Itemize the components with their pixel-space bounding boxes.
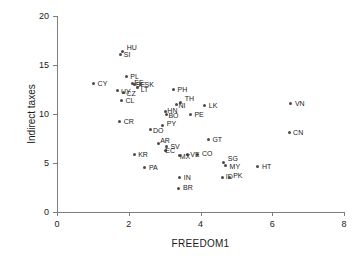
y-tick-label: 0	[44, 207, 49, 217]
data-point-label: SG	[228, 155, 238, 162]
x-tick-label: 4	[198, 219, 203, 229]
data-point-label: GT	[212, 136, 222, 143]
data-point-label: CN	[293, 129, 303, 136]
x-tick-mark	[129, 212, 130, 216]
data-point-label: VN	[295, 100, 305, 107]
data-point-label: SI	[124, 51, 131, 58]
data-point	[288, 131, 291, 134]
data-point-label: MX	[180, 153, 191, 160]
y-axis-line	[57, 16, 58, 212]
x-tick-label: 8	[341, 219, 346, 229]
x-tick-mark	[201, 212, 202, 216]
x-tick-mark	[272, 212, 273, 216]
x-tick-mark	[57, 212, 58, 216]
data-point-label: CY	[98, 80, 108, 87]
data-point-label: PA	[149, 164, 158, 171]
data-point-label: TH	[185, 95, 194, 102]
x-tick-label: 0	[54, 219, 59, 229]
data-point	[133, 153, 136, 156]
y-tick-label: 15	[39, 60, 49, 70]
data-point	[228, 176, 231, 179]
data-point	[222, 161, 225, 164]
data-point-label: NI	[178, 102, 185, 109]
data-point-label: PH	[178, 86, 188, 93]
y-tick-mark	[53, 65, 57, 66]
y-tick-label: 5	[44, 158, 49, 168]
data-point-label: PY	[167, 120, 176, 127]
data-point-label: AR	[160, 137, 170, 144]
y-tick-mark	[53, 163, 57, 164]
data-point-label: CO	[202, 150, 213, 157]
data-point	[221, 176, 224, 179]
data-point-label: HT	[262, 163, 271, 170]
data-point-label: LK	[209, 102, 218, 109]
y-tick-mark	[53, 16, 57, 17]
x-tick-label: 6	[270, 219, 275, 229]
data-point-label: BR	[183, 184, 193, 191]
data-point-label: CR	[124, 118, 134, 125]
y-axis-title: Indirect taxes	[26, 84, 37, 143]
y-tick-label: 20	[39, 11, 49, 21]
data-point-label: HU	[127, 44, 137, 51]
data-point-label: PE	[194, 111, 203, 118]
data-point-label: EC	[165, 147, 175, 154]
data-point-label: LT	[141, 86, 149, 93]
data-point-label: BO	[168, 112, 178, 119]
x-tick-label: 2	[126, 219, 131, 229]
y-tick-mark	[53, 114, 57, 115]
x-axis-title: FREEDOM1	[57, 238, 344, 249]
y-tick-label: 10	[39, 109, 49, 119]
data-point-label: VE	[190, 151, 199, 158]
x-tick-mark	[344, 212, 345, 216]
data-point-label: CL	[126, 97, 135, 104]
data-point	[122, 91, 125, 94]
data-point-label: MY	[230, 163, 241, 170]
data-point-label: IN	[184, 174, 191, 181]
scatter-plot-figure: 0246805101520 HUSIPLCYEESESKLTUYCZPHCLTH…	[0, 0, 360, 277]
data-point-label: PK	[233, 172, 242, 179]
data-point-label: DO	[153, 127, 164, 134]
y-tick-mark	[53, 212, 57, 213]
data-point-label: KR	[138, 151, 148, 158]
